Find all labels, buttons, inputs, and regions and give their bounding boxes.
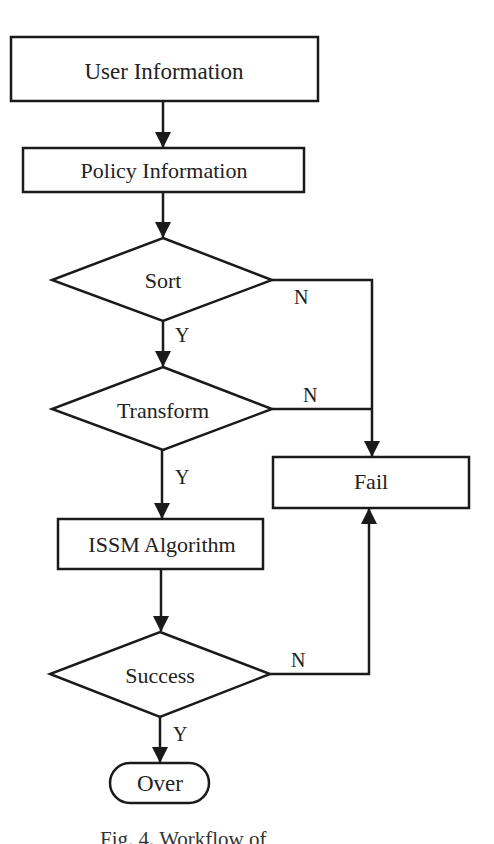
issm-algorithm-label: ISSM Algorithm (88, 532, 235, 557)
success-yes-label: Y (173, 723, 187, 745)
transform-label: Transform (117, 398, 209, 423)
edge-success-no (270, 509, 369, 674)
transform-yes-label: Y (175, 466, 189, 488)
transform-no-label: N (303, 384, 317, 406)
sort-label: Sort (145, 268, 182, 293)
user-information-label: User Information (84, 59, 244, 84)
fail-label: Fail (354, 469, 388, 494)
figure-caption: Fig. 4. Workflow of (100, 826, 400, 844)
sort-no-label: N (294, 286, 308, 308)
success-label: Success (125, 663, 195, 688)
edge-sort-no (272, 280, 372, 456)
over-label: Over (137, 771, 183, 796)
sort-yes-label: Y (175, 324, 189, 346)
policy-information-label: Policy Information (81, 158, 248, 183)
success-no-label: N (291, 649, 305, 671)
flowchart-canvas: User Information Policy Information Sort… (0, 0, 494, 844)
